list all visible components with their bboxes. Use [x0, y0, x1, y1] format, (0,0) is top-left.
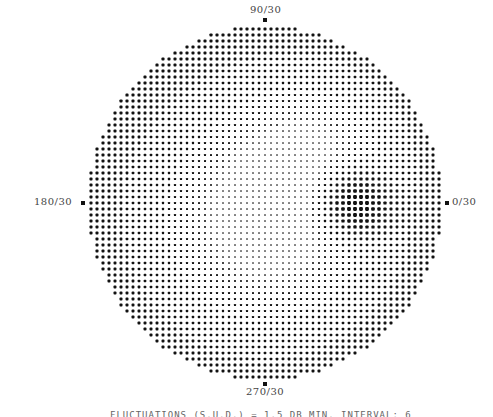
field-dot: [360, 118, 362, 120]
field-dot: [150, 226, 152, 228]
field-dot: [366, 70, 369, 73]
field-dot: [150, 154, 153, 157]
field-dot: [288, 178, 290, 180]
field-dot: [390, 202, 393, 205]
field-dot: [306, 34, 309, 37]
field-dot: [114, 250, 117, 253]
field-dot: [288, 76, 290, 78]
field-dot: [384, 238, 387, 241]
field-dot: [204, 334, 207, 337]
field-dot: [312, 82, 314, 84]
field-dot: [276, 160, 278, 162]
field-dot: [372, 178, 375, 181]
field-dot: [186, 106, 189, 109]
field-dot: [258, 238, 260, 240]
field-dot: [210, 352, 213, 355]
field-dot: [324, 280, 326, 282]
field-dot: [168, 274, 170, 276]
field-dot: [306, 316, 308, 318]
field-dot: [312, 184, 314, 186]
field-dot: [354, 304, 357, 307]
field-dot: [108, 214, 111, 217]
field-dot: [162, 256, 164, 258]
field-dot: [192, 280, 194, 282]
field-dot: [276, 304, 278, 306]
field-dot: [306, 250, 308, 252]
field-dot: [216, 358, 219, 361]
field-dot: [390, 154, 392, 156]
field-dot: [342, 298, 344, 300]
field-dot: [372, 88, 375, 91]
field-dot: [294, 364, 297, 367]
field-dot: [354, 298, 356, 300]
field-dot: [372, 250, 375, 253]
field-dot: [192, 190, 194, 192]
field-dot: [306, 118, 308, 120]
field-dot: [347, 195, 351, 199]
field-dot: [156, 196, 158, 198]
field-dot: [414, 268, 417, 271]
field-dot: [312, 148, 314, 150]
field-dot: [95, 237, 98, 240]
field-dot: [408, 256, 411, 259]
field-dot: [402, 310, 405, 313]
field-dot: [396, 118, 399, 121]
field-dot: [204, 130, 206, 132]
field-dot: [378, 244, 381, 247]
field-dot: [198, 196, 200, 198]
field-dot: [138, 316, 141, 319]
field-dot: [372, 316, 375, 319]
field-dot: [402, 238, 405, 241]
field-dot: [180, 136, 182, 138]
field-dot: [383, 207, 386, 210]
field-dot: [240, 214, 242, 216]
field-dot: [252, 178, 254, 180]
field-dot: [168, 304, 171, 307]
field-dot: [204, 250, 206, 252]
field-dot: [186, 304, 188, 306]
field-dot: [402, 142, 405, 145]
field-dot: [210, 64, 213, 67]
field-dot: [414, 112, 417, 115]
field-dot: [240, 322, 242, 324]
field-dot: [114, 148, 117, 151]
field-dot: [143, 75, 146, 78]
field-dot: [126, 166, 129, 169]
field-dot: [144, 238, 147, 241]
field-dot: [408, 220, 411, 223]
field-dot: [240, 70, 243, 73]
field-dot: [294, 154, 296, 156]
field-dot: [341, 189, 344, 192]
field-dot: [354, 154, 356, 156]
field-dot: [300, 250, 302, 252]
field-dot: [371, 189, 374, 192]
field-dot: [240, 130, 242, 132]
field-dot: [348, 238, 351, 241]
field-dot: [276, 184, 278, 186]
field-dot: [270, 208, 272, 210]
field-dot: [306, 106, 308, 108]
field-dot: [360, 316, 363, 319]
field-dot: [366, 124, 368, 126]
field-dot: [234, 346, 237, 349]
field-dot: [384, 322, 387, 325]
field-dot: [150, 250, 152, 252]
field-dot: [234, 88, 236, 90]
field-dot: [192, 334, 195, 337]
field-dot: [204, 244, 206, 246]
field-dot: [186, 352, 189, 355]
field-dot: [318, 154, 320, 156]
field-dot: [126, 226, 129, 229]
field-dot: [240, 160, 242, 162]
field-dot: [191, 45, 194, 48]
field-dot: [264, 34, 267, 37]
field-dot: [318, 58, 321, 61]
field-dot: [342, 94, 344, 96]
field-dot: [204, 70, 207, 73]
field-dot: [240, 46, 243, 49]
field-dot: [324, 268, 326, 270]
field-dot: [336, 316, 339, 319]
field-dot: [402, 94, 405, 97]
field-dot: [186, 118, 189, 121]
field-dot: [318, 124, 320, 126]
